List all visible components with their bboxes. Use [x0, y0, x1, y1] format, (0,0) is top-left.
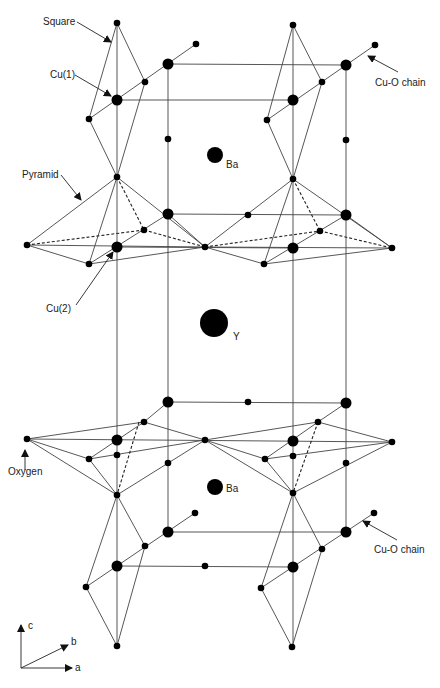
- axis-label-c: c: [28, 621, 33, 631]
- label-cu2: Cu(2): [46, 304, 71, 314]
- label-square: Square: [43, 17, 75, 27]
- label-cu1: Cu(1): [50, 70, 75, 80]
- label-y: Y: [233, 332, 240, 342]
- label-cuo-chain-bottom: Cu-O chain: [374, 545, 425, 555]
- axis-label-a: a: [75, 663, 81, 673]
- structure-svg: [0, 0, 440, 688]
- label-pyramid: Pyramid: [22, 170, 59, 180]
- crystal-structure-diagram: Square Cu(1) Pyramid Cu(2) Cu-O chain Cu…: [0, 0, 440, 688]
- label-oxygen: Oxygen: [8, 467, 42, 477]
- atoms: [24, 20, 396, 651]
- axis-label-b: b: [71, 637, 77, 647]
- label-ba-top: Ba: [226, 160, 238, 170]
- label-ba-bottom: Ba: [226, 484, 238, 494]
- label-cuo-chain-top: Cu-O chain: [375, 78, 426, 88]
- axes-indicator: [21, 625, 72, 668]
